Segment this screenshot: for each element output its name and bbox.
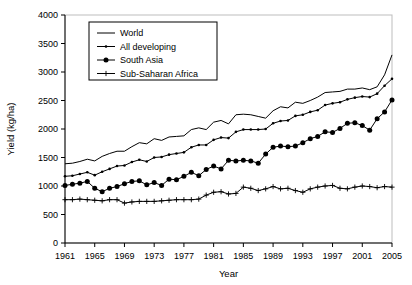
data-marker bbox=[129, 179, 134, 184]
data-marker bbox=[211, 164, 216, 169]
x-tick-label: 1973 bbox=[144, 251, 164, 261]
chart-legend: WorldAll developingSouth AsiaSub-Saharan… bbox=[89, 22, 217, 80]
data-marker bbox=[390, 97, 395, 102]
data-marker bbox=[168, 153, 171, 156]
data-marker bbox=[337, 126, 342, 131]
data-marker bbox=[205, 144, 208, 147]
y-axis-title: Yield (kg/ha) bbox=[5, 103, 16, 156]
y-tick-label: 0 bbox=[53, 238, 58, 248]
data-marker bbox=[204, 167, 209, 172]
data-marker bbox=[272, 122, 275, 125]
data-marker bbox=[220, 136, 223, 139]
data-marker bbox=[285, 144, 290, 149]
x-tick-label: 2001 bbox=[352, 251, 372, 261]
data-marker bbox=[138, 158, 141, 161]
data-marker bbox=[391, 78, 394, 81]
data-marker bbox=[63, 183, 68, 188]
chart-canvas: 0500100015002000250030003500400019611965… bbox=[0, 0, 412, 285]
data-marker bbox=[300, 140, 305, 145]
data-marker bbox=[123, 164, 126, 167]
data-marker bbox=[323, 129, 328, 134]
yield-line-chart: 0500100015002000250030003500400019611965… bbox=[0, 0, 412, 285]
data-marker bbox=[92, 186, 97, 191]
x-tick-label: 1993 bbox=[293, 251, 313, 261]
data-marker bbox=[175, 152, 178, 155]
data-marker bbox=[115, 184, 120, 189]
data-marker bbox=[241, 158, 246, 163]
y-tick-label: 2000 bbox=[38, 124, 58, 134]
data-marker bbox=[104, 58, 109, 63]
legend-label: World bbox=[120, 28, 143, 38]
data-marker bbox=[308, 136, 313, 141]
data-marker bbox=[105, 45, 108, 48]
y-tick-label: 2500 bbox=[38, 96, 58, 106]
data-marker bbox=[183, 151, 186, 154]
data-marker bbox=[137, 178, 142, 183]
data-marker bbox=[302, 113, 305, 116]
data-marker bbox=[226, 158, 231, 163]
data-marker bbox=[360, 123, 365, 128]
y-tick-label: 3500 bbox=[38, 39, 58, 49]
data-marker bbox=[256, 161, 261, 166]
data-marker bbox=[257, 128, 260, 131]
data-marker bbox=[279, 120, 282, 123]
data-marker bbox=[152, 180, 157, 185]
data-marker bbox=[181, 174, 186, 179]
data-marker bbox=[264, 128, 267, 131]
data-marker bbox=[64, 175, 67, 178]
y-tick-label: 4000 bbox=[38, 10, 58, 20]
data-marker bbox=[376, 92, 379, 95]
x-tick-label: 1989 bbox=[263, 251, 283, 261]
data-marker bbox=[382, 109, 387, 114]
x-axis-title: Year bbox=[219, 268, 238, 279]
legend-label: All developing bbox=[120, 42, 176, 52]
x-tick-label: 1965 bbox=[85, 251, 105, 261]
data-marker bbox=[345, 121, 350, 126]
data-marker bbox=[278, 144, 283, 149]
data-marker bbox=[271, 145, 276, 150]
data-marker bbox=[330, 130, 335, 135]
data-marker bbox=[352, 120, 357, 125]
data-marker bbox=[159, 183, 164, 188]
data-marker bbox=[167, 177, 172, 182]
data-marker bbox=[77, 181, 82, 186]
data-marker bbox=[354, 96, 357, 99]
data-marker bbox=[346, 98, 349, 101]
data-marker bbox=[197, 144, 200, 147]
data-marker bbox=[315, 134, 320, 139]
data-marker bbox=[287, 119, 290, 122]
data-marker bbox=[145, 160, 148, 163]
data-marker bbox=[383, 84, 386, 87]
data-marker bbox=[309, 111, 312, 114]
data-marker bbox=[189, 170, 194, 175]
x-tick-label: 1961 bbox=[55, 251, 75, 261]
data-marker bbox=[196, 173, 201, 178]
x-tick-label: 1969 bbox=[114, 251, 134, 261]
data-marker bbox=[93, 174, 96, 177]
data-marker bbox=[263, 152, 268, 157]
x-tick-label: 2005 bbox=[382, 251, 402, 261]
data-marker bbox=[375, 116, 380, 121]
data-marker bbox=[79, 173, 82, 176]
data-marker bbox=[174, 177, 179, 182]
data-marker bbox=[144, 182, 149, 187]
y-tick-label: 3000 bbox=[38, 67, 58, 77]
data-marker bbox=[293, 144, 298, 149]
data-marker bbox=[324, 104, 327, 107]
data-marker bbox=[108, 168, 111, 171]
x-tick-label: 1977 bbox=[174, 251, 194, 261]
data-marker bbox=[116, 165, 119, 168]
y-tick-label: 500 bbox=[43, 210, 58, 220]
y-tick-label: 1000 bbox=[38, 181, 58, 191]
data-marker bbox=[153, 156, 156, 159]
data-marker bbox=[131, 161, 134, 164]
data-marker bbox=[248, 158, 253, 163]
x-tick-label: 1997 bbox=[323, 251, 343, 261]
data-marker bbox=[71, 174, 74, 177]
data-marker bbox=[361, 95, 364, 98]
data-marker bbox=[249, 128, 252, 131]
data-marker bbox=[122, 181, 127, 186]
data-marker bbox=[233, 158, 238, 163]
y-tick-label: 1500 bbox=[38, 153, 58, 163]
x-tick-label: 1985 bbox=[233, 251, 253, 261]
